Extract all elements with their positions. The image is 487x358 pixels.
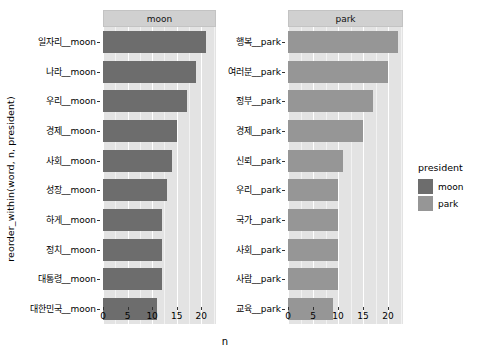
y-tick-label: 교육__park: [236, 298, 281, 320]
bar: [288, 31, 398, 53]
y-tick-mark: [97, 279, 100, 280]
y-tick-label: 경제__park: [236, 120, 281, 142]
legend-label: park: [438, 199, 458, 209]
bar: [103, 268, 162, 290]
y-tick-mark: [282, 131, 285, 132]
x-tick-label: 5: [310, 311, 316, 321]
bar: [288, 150, 343, 172]
bar: [288, 209, 338, 231]
gridline-major: [388, 27, 389, 324]
bar: [103, 90, 187, 112]
y-tick-mark: [97, 101, 100, 102]
facet-panel-park: park: [288, 10, 403, 324]
bar: [103, 150, 172, 172]
legend-item[interactable]: park: [418, 195, 484, 212]
y-tick-mark: [282, 250, 285, 251]
legend-item[interactable]: moon: [418, 178, 484, 195]
gridline-minor: [401, 27, 402, 324]
y-tick-label: 정치__moon: [46, 239, 96, 261]
y-tick-mark: [97, 190, 100, 191]
x-tick-label: 10: [332, 311, 343, 321]
gridline-major: [201, 27, 202, 324]
facet-panel-moon: moon: [103, 10, 216, 324]
bar: [103, 209, 162, 231]
y-tick-label: 여러분__park: [228, 61, 281, 83]
y-tick-label: 신뢰__park: [236, 150, 281, 172]
x-tick-label: 15: [171, 311, 182, 321]
y-tick-label: 나라__moon: [46, 61, 96, 83]
facet-strip-label-moon: moon: [103, 10, 216, 27]
y-tick-label: 국가__park: [236, 209, 281, 231]
x-tick-mark: [152, 307, 153, 310]
bar: [103, 61, 196, 83]
y-tick-label: 사회__park: [236, 239, 281, 261]
legend-title: president: [418, 162, 484, 173]
x-tick-mark: [201, 307, 202, 310]
y-tick-label: 일자리__moon: [38, 31, 96, 53]
chart-root: reorder_within(word, n, president) moon …: [0, 0, 487, 358]
bar: [288, 268, 338, 290]
y-tick-mark: [97, 161, 100, 162]
bar: [103, 31, 206, 53]
x-tick-mark: [313, 307, 314, 310]
bar: [288, 61, 388, 83]
x-tick-mark: [388, 307, 389, 310]
legend-swatch: [418, 196, 433, 211]
x-tick-label: 0: [100, 311, 106, 321]
y-tick-label: 성장__moon: [46, 179, 96, 201]
legend-items: moonpark: [418, 178, 484, 212]
x-tick-mark: [288, 307, 289, 310]
y-tick-mark: [282, 309, 285, 310]
y-tick-mark: [97, 220, 100, 221]
gridline-minor: [214, 27, 215, 324]
y-tick-mark: [97, 309, 100, 310]
y-tick-mark: [97, 131, 100, 132]
legend-swatch: [418, 179, 433, 194]
y-axis-title: reorder_within(word, n, president): [0, 0, 20, 358]
y-tick-mark: [282, 220, 285, 221]
x-tick-label: 10: [146, 311, 157, 321]
legend: president moonpark: [418, 162, 484, 212]
bar: [288, 120, 363, 142]
x-tick-label: 5: [125, 311, 131, 321]
y-tick-mark: [282, 72, 285, 73]
bar: [103, 179, 167, 201]
y-tick-mark: [97, 250, 100, 251]
y-tick-label: 대한민국__moon: [30, 298, 96, 320]
bar: [103, 120, 177, 142]
facet-strip-label-park: park: [288, 10, 403, 27]
y-tick-label: 행복__park: [236, 31, 281, 53]
y-tick-label: 대통령__moon: [38, 268, 96, 290]
y-tick-mark: [97, 42, 100, 43]
x-tick-label: 20: [196, 311, 207, 321]
y-tick-mark: [282, 101, 285, 102]
x-tick-mark: [177, 307, 178, 310]
y-tick-label: 사람__park: [236, 268, 281, 290]
y-tick-mark: [97, 72, 100, 73]
y-tick-mark: [282, 279, 285, 280]
x-tick-label: 0: [285, 311, 291, 321]
bar: [288, 179, 338, 201]
x-tick-mark: [128, 307, 129, 310]
y-tick-mark: [282, 161, 285, 162]
y-tick-label: 정부__park: [236, 90, 281, 112]
y-tick-label: 경제__moon: [46, 120, 96, 142]
legend-label: moon: [438, 182, 463, 192]
y-tick-label: 우리__moon: [46, 90, 96, 112]
x-axis-moon: 05101520: [103, 307, 216, 329]
x-tick-mark: [103, 307, 104, 310]
y-tick-label: 사회__moon: [46, 150, 96, 172]
bar: [103, 239, 162, 261]
bar: [288, 239, 338, 261]
y-tick-label: 우리__park: [236, 179, 281, 201]
x-tick-label: 20: [382, 311, 393, 321]
x-axis-title: n: [30, 336, 420, 347]
plot-area-park: [288, 27, 403, 324]
bar: [288, 90, 373, 112]
y-tick-label: 하게__moon: [46, 209, 96, 231]
x-tick-mark: [338, 307, 339, 310]
plot-area-moon: [103, 27, 216, 324]
x-tick-mark: [363, 307, 364, 310]
y-tick-mark: [282, 190, 285, 191]
y-tick-mark: [282, 42, 285, 43]
